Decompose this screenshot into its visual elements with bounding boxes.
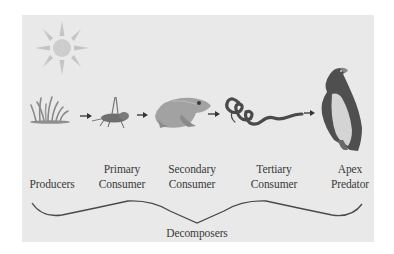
producers-label: Producers [24, 162, 80, 192]
arrow-right-icon [137, 112, 148, 118]
frog-icon [155, 98, 211, 128]
label-line-1: Apex [325, 162, 375, 177]
food-chain-illustration [0, 0, 394, 254]
arrow-right-icon [208, 111, 220, 117]
grasshopper-icon [92, 97, 129, 128]
decomposers-label: Decomposers [157, 226, 237, 241]
snake-icon [227, 99, 302, 124]
secondary-consumer-label: Secondary Consumer [160, 162, 224, 192]
label-line-2: Predator [325, 177, 375, 192]
label-line-2: Consumer [243, 177, 305, 192]
decomposers-text: Decomposers [157, 226, 237, 241]
label-line-2: Consumer [92, 177, 152, 192]
tertiary-consumer-label: Tertiary Consumer [243, 162, 305, 192]
label-line-2: Consumer [160, 177, 224, 192]
arrow-right-icon [80, 113, 92, 119]
primary-consumer-label: Primary Consumer [92, 162, 152, 192]
label-line-2: Producers [24, 177, 80, 192]
arrow-right-icon [304, 110, 315, 116]
label-line-1: Primary [92, 162, 152, 177]
eagle-icon [322, 68, 362, 151]
sun-icon [35, 21, 89, 75]
label-line-1: Secondary [160, 162, 224, 177]
grass-icon [30, 97, 70, 124]
label-line-1: Tertiary [243, 162, 305, 177]
curly-brace [32, 201, 362, 223]
label-line-1 [24, 162, 80, 177]
apex-predator-label: Apex Predator [325, 162, 375, 192]
